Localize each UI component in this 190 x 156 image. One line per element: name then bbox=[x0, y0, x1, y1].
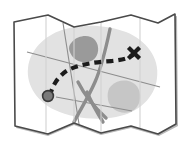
route-start-dot bbox=[43, 91, 54, 102]
map-illustration: Folded route map with dashed trail and X… bbox=[0, 0, 190, 156]
map-svg-canvas bbox=[0, 0, 190, 156]
